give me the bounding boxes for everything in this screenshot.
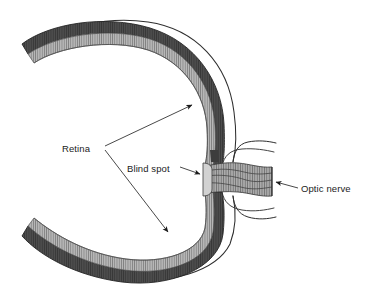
label-blind-spot: Blind spot xyxy=(127,163,170,174)
eye-cross-section-illustration: Retina Blind spot Optic nerve xyxy=(0,0,370,298)
label-retina: Retina xyxy=(62,143,91,154)
optic-disc xyxy=(203,163,212,196)
label-optic-nerve: Optic nerve xyxy=(301,183,351,194)
optic-nerve-band xyxy=(206,163,272,196)
optic-disc-upper-wedge xyxy=(210,150,219,162)
eye-anatomy-diagram: Retina Blind spot Optic nerve xyxy=(0,0,370,298)
